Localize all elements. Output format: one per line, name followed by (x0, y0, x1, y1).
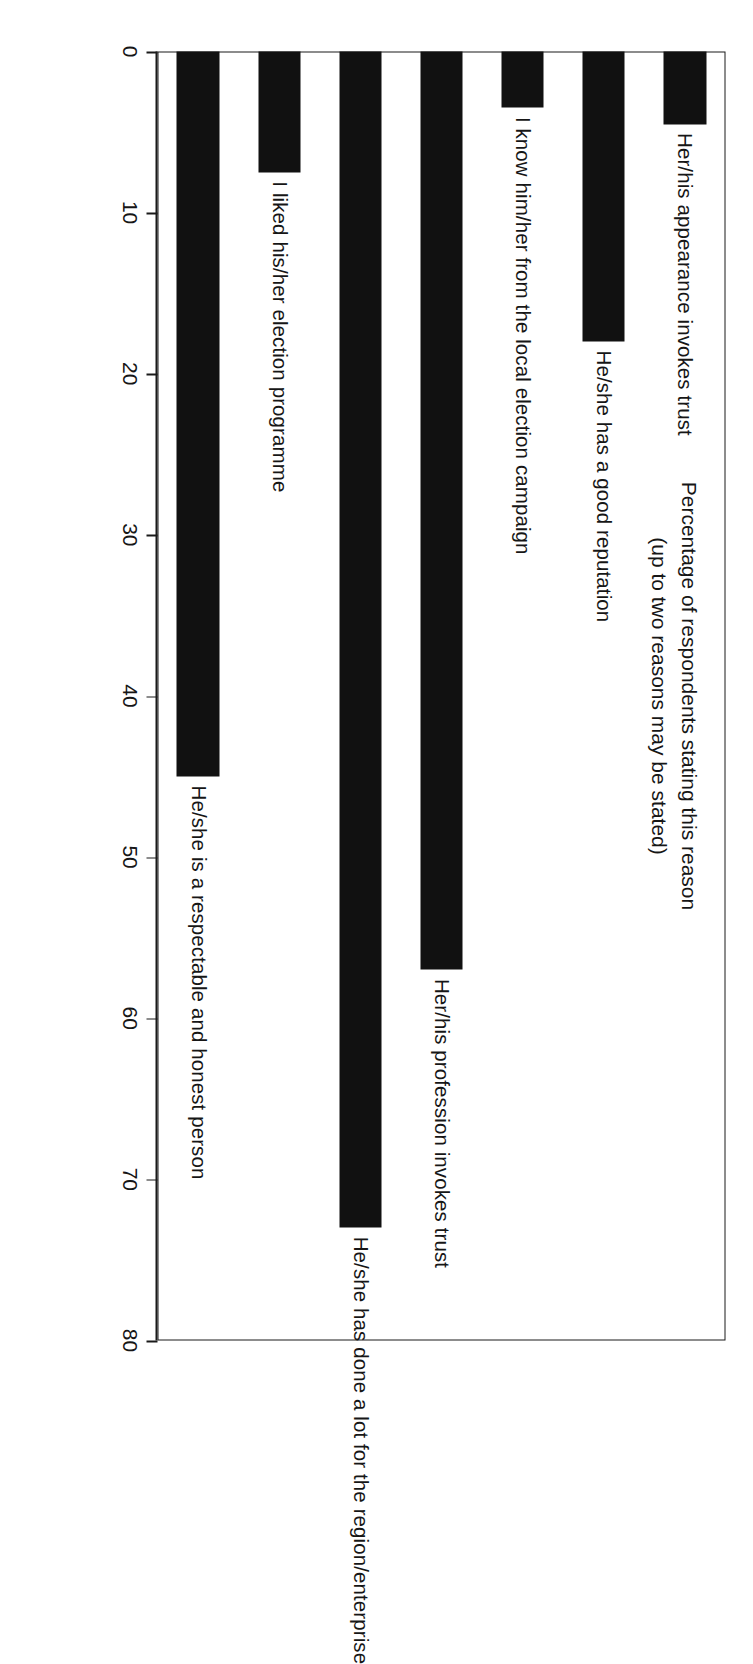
axis-tick (146, 373, 157, 375)
bar-category-label: He/she has done a lot for the region/ent… (348, 1227, 372, 1664)
axis-tick (146, 534, 157, 536)
axis-tick-label: 0 (117, 45, 141, 57)
axis-tick-label: 80 (117, 1328, 141, 1351)
bar-group: I know him/her from the local election c… (482, 51, 563, 1340)
bar-category-label: I know him/her from the local election c… (510, 107, 534, 554)
axis-tick-label: 30 (117, 523, 141, 546)
bar-group: He/she has done a lot for the region/ent… (319, 51, 400, 1340)
axis-tick-label: 50 (117, 845, 141, 868)
axis-tick (146, 51, 157, 53)
axis-title: Percentage of respondents stating this r… (642, 51, 703, 1340)
bar[interactable] (339, 51, 381, 1227)
axis-tick (146, 696, 157, 698)
bar[interactable] (501, 51, 543, 107)
axis-tick-label: 20 (117, 362, 141, 385)
axis-tick (146, 1340, 157, 1342)
axis-tick-label: 10 (117, 200, 141, 223)
bar-category-label: I liked his/her election programme (267, 172, 291, 492)
bar-group: He/she is a respectable and honest perso… (157, 51, 238, 1340)
bar[interactable] (258, 51, 300, 172)
axis-title-line-2: (up to two reasons may be stated) (642, 51, 672, 1340)
axis-tick (146, 1179, 157, 1181)
axis-tick-label: 70 (117, 1167, 141, 1190)
axis-title-line-1: Percentage of respondents stating this r… (673, 51, 703, 1340)
axis-tick (146, 857, 157, 859)
bar-category-label: He/she has a good reputation (591, 341, 615, 622)
bar[interactable] (420, 51, 462, 969)
bar-category-label: He/she is a respectable and honest perso… (186, 776, 210, 1179)
axis-tick (146, 1018, 157, 1020)
bar-category-label: Her/his profession invokes trust (429, 969, 453, 1267)
bar-group: Her/his profession invokes trust (400, 51, 481, 1340)
axis-tick-label: 40 (117, 684, 141, 707)
bar-series: Her/his appearance invokes trustHe/she h… (157, 51, 725, 1340)
axis-tick-label: 60 (117, 1006, 141, 1029)
axis-tick (146, 212, 157, 214)
bar[interactable] (582, 51, 624, 341)
bar-group: He/she has a good reputation (563, 51, 644, 1340)
bar[interactable] (177, 51, 219, 776)
bar-group: I liked his/her election programme (238, 51, 319, 1340)
